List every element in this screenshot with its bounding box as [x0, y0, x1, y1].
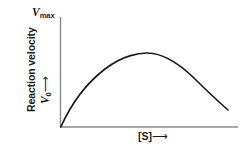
- substrate-symbol: [S]: [138, 130, 152, 142]
- x-axis-arrow-icon: ⟶: [152, 130, 167, 142]
- y-axis-arrow-icon: ⟶: [39, 77, 51, 92]
- y-axis-title: Reaction velocity: [26, 27, 37, 112]
- velocity-curve: [61, 53, 228, 127]
- x-axis-label: [S]⟶: [138, 131, 167, 142]
- enzyme-kinetics-figure: Vmax Reaction velocity V0⟶ [S]⟶: [0, 0, 244, 153]
- v0-symbol: V: [39, 96, 51, 104]
- v0-subscript: 0: [44, 92, 53, 96]
- y-axis-symbol-label: V0⟶: [40, 77, 52, 104]
- y-axis-label-group: Reaction velocity V0⟶: [0, 0, 58, 140]
